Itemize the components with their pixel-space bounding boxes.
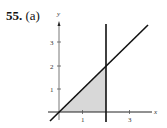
y-tick-1: 1: [50, 86, 54, 94]
x-tick-3: 3: [128, 116, 132, 124]
x-axis-label: x: [153, 108, 158, 116]
y-tick-2: 2: [50, 63, 54, 71]
y-axis-arrow-icon: [58, 21, 61, 26]
graph: 1 3 1 2 3 y x: [0, 0, 167, 128]
y-axis-label: y: [56, 10, 61, 18]
x-tick-1: 1: [81, 116, 85, 124]
y-tick-3: 3: [50, 39, 54, 47]
